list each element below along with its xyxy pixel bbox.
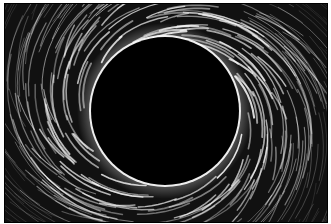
corona-swirl (5, 4, 327, 222)
eclipse-illustration (4, 3, 328, 223)
moon-disk (91, 37, 239, 185)
